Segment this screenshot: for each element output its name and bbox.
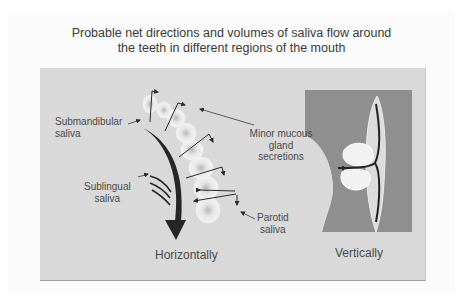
caption-vertically: Vertically bbox=[335, 246, 383, 260]
saliva-flow-illustration bbox=[0, 0, 463, 302]
label-text: Minor mucous bbox=[246, 128, 316, 140]
label-text: gland bbox=[246, 140, 316, 152]
label-text: Sublingual bbox=[84, 181, 131, 193]
label-pointers bbox=[128, 109, 326, 219]
label-minor-mucous-gland-secretions: Minor mucous gland secretions bbox=[246, 128, 316, 163]
label-sublingual-saliva: Sublingual saliva bbox=[84, 181, 131, 204]
label-text: secretions bbox=[246, 151, 316, 163]
label-text: Submandibular bbox=[55, 116, 122, 128]
vertical-cross-section bbox=[305, 90, 412, 232]
label-text: saliva bbox=[257, 224, 289, 236]
label-text: Parotid bbox=[257, 212, 289, 224]
main-flow-arrow bbox=[143, 128, 186, 240]
label-parotid-saliva: Parotid saliva bbox=[257, 212, 289, 235]
label-text: saliva bbox=[84, 193, 131, 205]
label-text: saliva bbox=[55, 128, 122, 140]
caption-horizontally: Horizontally bbox=[155, 248, 218, 262]
label-submandibular-saliva: Submandibular saliva bbox=[55, 116, 122, 139]
